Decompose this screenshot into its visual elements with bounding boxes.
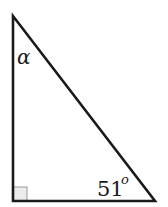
right-triangle-diagram: α 51 o	[0, 0, 168, 207]
angle-value: 51	[97, 177, 124, 201]
triangle-outline	[13, 16, 155, 201]
alpha-angle-label: α	[17, 45, 31, 69]
right-angle-marker	[13, 187, 27, 201]
angle-51-label: 51	[97, 177, 124, 201]
degree-symbol: o	[121, 172, 129, 187]
